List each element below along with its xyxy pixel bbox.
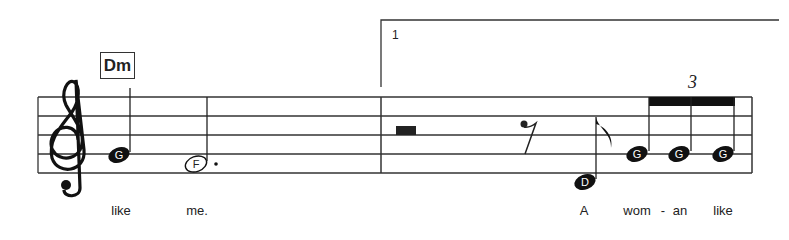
- note-f-dotted-half: F: [183, 97, 218, 175]
- svg-text:G: G: [719, 148, 728, 160]
- lyric: me.: [186, 203, 208, 218]
- staff-lines: [38, 97, 752, 173]
- svg-text:G: G: [115, 149, 124, 161]
- svg-text:G: G: [633, 148, 642, 160]
- half-rest-icon: [396, 126, 416, 135]
- lyric: like: [713, 203, 733, 218]
- lyric: -: [661, 203, 665, 218]
- svg-text:G: G: [675, 148, 684, 160]
- chord-symbol: Dm: [100, 52, 135, 79]
- tuplet-number: 3: [688, 72, 697, 93]
- first-ending-bracket: [381, 20, 779, 87]
- svg-text:F: F: [193, 158, 200, 170]
- ending-number: 1: [392, 28, 399, 42]
- lyric: wom: [623, 203, 650, 218]
- eighth-rest-icon: [521, 121, 537, 155]
- lyric: an: [673, 203, 687, 218]
- triplet-group: G G G: [624, 97, 736, 165]
- svg-text:D: D: [581, 176, 589, 188]
- note-d-eighth: D: [572, 117, 611, 193]
- lyric: like: [111, 203, 131, 218]
- lyric: A: [580, 203, 589, 218]
- beam: [649, 97, 735, 106]
- note-g-half: G: [106, 88, 132, 166]
